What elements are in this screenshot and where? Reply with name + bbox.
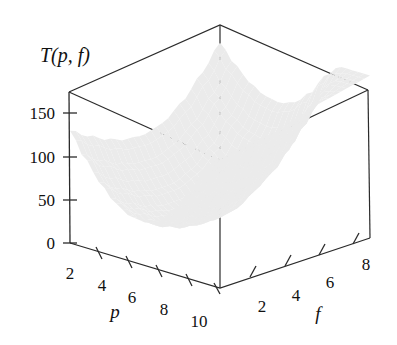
z-tick-label-100: 100 [30,148,56,167]
p-tick-8 [186,274,192,286]
p-tick-label-8: 8 [160,300,169,319]
p-axis-label: p [108,301,120,322]
f-tick-label-2: 2 [258,297,267,316]
p-tick-label-2: 2 [66,264,75,283]
surface-plot-figure: 150 100 50 0 2 4 6 8 10 p 2 4 6 [0,0,397,345]
z-tick-label-0: 0 [47,234,56,253]
f-tick-label-4: 4 [292,286,301,305]
p-tick-2 [96,247,102,259]
f-tick-2 [250,266,256,277]
p-tick-6 [156,265,162,277]
f-axis-label: f [315,303,323,324]
p-tick-10 [214,283,220,294]
f-tick-label-6: 6 [326,273,335,292]
p-tick-label-6: 6 [128,288,137,307]
p-axis: 2 4 6 8 10 p [66,247,220,331]
plot-canvas: 150 100 50 0 2 4 6 8 10 p 2 4 6 [0,0,397,345]
z-axis: 150 100 50 0 [30,92,78,253]
p-tick-4 [126,256,132,268]
z-axis-line [69,92,70,243]
f-tick-label-8: 8 [362,255,371,274]
plot-title: T(p, f) [40,44,90,67]
z-tick-label-50: 50 [38,191,55,210]
p-tick-label-10: 10 [191,312,208,331]
p-tick-label-4: 4 [98,276,107,295]
box-vertical-right-edge [368,90,370,238]
f-axis: 2 4 6 8 f [250,233,370,324]
z-tick-label-150: 150 [30,104,56,123]
